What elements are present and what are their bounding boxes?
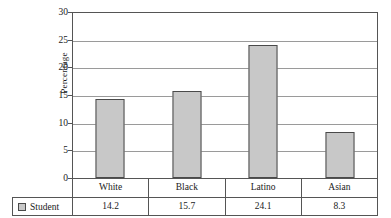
- category-label: Latino: [226, 179, 302, 197]
- table-row: Student 14.215.724.18.3: [12, 197, 378, 216]
- value-cell: 15.7: [149, 198, 225, 215]
- bar-asian: [325, 132, 354, 178]
- bar-slot: [149, 12, 226, 178]
- bar-series-student: [72, 12, 378, 178]
- legend-swatch-icon: [18, 203, 26, 211]
- y-tick-label: 15: [52, 89, 68, 101]
- legend-entry-student: Student: [12, 197, 72, 216]
- y-tick-label: 10: [52, 117, 68, 129]
- data-table: WhiteBlackLatinoAsian Student 14.215.724…: [12, 178, 378, 216]
- legend-label: Student: [30, 202, 59, 212]
- category-label: Asian: [302, 179, 377, 197]
- value-cells: 14.215.724.18.3: [72, 197, 378, 216]
- value-cell: 14.2: [73, 198, 149, 215]
- legend-cell-empty: [12, 178, 72, 197]
- bar-slot: [225, 12, 302, 178]
- category-label: Black: [149, 179, 225, 197]
- bar-black: [172, 91, 201, 178]
- bar-latino: [249, 45, 278, 178]
- value-cell: 24.1: [226, 198, 302, 215]
- category-cells: WhiteBlackLatinoAsian: [72, 178, 378, 197]
- bar-chart-figure: Percentage 051015202530 WhiteBlackLatino…: [0, 0, 391, 218]
- y-tick-label: 5: [52, 144, 68, 156]
- table-row-categories: WhiteBlackLatinoAsian: [12, 178, 378, 197]
- y-tick-label: 30: [52, 6, 68, 18]
- y-tick-label: 25: [52, 34, 68, 46]
- bar-slot: [302, 12, 379, 178]
- bar-slot: [72, 12, 149, 178]
- y-tick-label: 20: [52, 61, 68, 73]
- category-label: White: [73, 179, 149, 197]
- bar-white: [96, 99, 125, 178]
- value-cell: 8.3: [302, 198, 377, 215]
